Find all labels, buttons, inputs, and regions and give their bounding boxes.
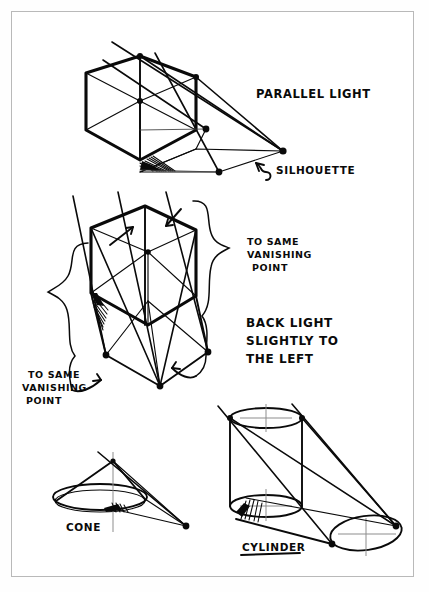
- figure-back-light-cube: [48, 192, 229, 391]
- label-back-light-line1: BACK LIGHT: [246, 316, 333, 330]
- cube1-vertex-dot-top: [137, 53, 143, 59]
- cylinder-shadow-hatching: [236, 500, 262, 522]
- cube1-shadow-dot-low: [216, 169, 223, 176]
- cube2-shadow-dot-bottom: [157, 383, 164, 390]
- cylinder-top-right-dot: [299, 415, 305, 421]
- cone-shadow-ray-apex: [113, 461, 186, 526]
- cube1-vanishing-point-dot: [279, 147, 286, 154]
- cylinder-shadow-dot-right: [393, 523, 400, 530]
- label-vanishing-left-line3: POINT: [26, 395, 62, 406]
- cone-apex-dot: [110, 458, 115, 463]
- left-curly-brace: [48, 243, 88, 390]
- cube2-shadow-dot-left: [103, 352, 110, 359]
- cylinder-ray-through-left: [218, 406, 332, 544]
- label-cylinder: CYLINDER: [242, 541, 305, 553]
- sketch-artwork: PARALLEL LIGHT SILHOUETTE TO SAME VANISH…: [0, 0, 429, 592]
- cube1-vertex-dot-center: [137, 98, 143, 104]
- label-cone: CONE: [66, 521, 101, 533]
- cylinder-top-left-dot: [227, 415, 233, 421]
- label-silhouette: SILHOUETTE: [276, 164, 355, 176]
- silhouette-callout-arrow: [256, 163, 271, 180]
- figure-cone: [53, 452, 189, 532]
- label-vanishing-right-line2: VANISHING: [247, 249, 312, 260]
- figure-parallel-light-cube: [86, 42, 287, 180]
- cone-base-ellipse-outer: [53, 484, 147, 510]
- cylinder-shadow-dot-left: [329, 541, 336, 548]
- cylinder-ray-left: [230, 418, 396, 526]
- cylinder-top-axis-cross: [240, 404, 292, 432]
- cylinder-ray-through-right: [292, 404, 396, 526]
- cone-side-right: [113, 461, 145, 499]
- cube1-vertex-dot-top-right: [193, 74, 199, 80]
- label-back-light-line2: SLIGHTLY TO: [246, 334, 338, 348]
- right-curly-brace: [193, 201, 229, 376]
- label-vanishing-right-line3: POINT: [252, 262, 288, 273]
- cube2-vertex-dot-center: [145, 249, 151, 255]
- cone-shadow-ray-edge: [145, 499, 186, 526]
- label-back-light-line3: THE LEFT: [246, 352, 314, 366]
- figure-cylinder: [218, 404, 404, 556]
- cone-shadow-point-dot: [183, 523, 190, 530]
- cone-side-left: [56, 461, 113, 501]
- cube1-shadow-dot-mid: [203, 126, 210, 133]
- cube1-silhouette-edges: [86, 56, 196, 160]
- label-vanishing-left-line1: TO SAME: [28, 369, 80, 380]
- sketch-sheet: PARALLEL LIGHT SILHOUETTE TO SAME VANISH…: [0, 0, 429, 592]
- label-vanishing-left-line2: VANISHING: [22, 382, 87, 393]
- label-vanishing-right-line1: TO SAME: [247, 236, 299, 247]
- cylinder-label-underline: [241, 553, 300, 555]
- label-parallel-light: PARALLEL LIGHT: [256, 87, 371, 101]
